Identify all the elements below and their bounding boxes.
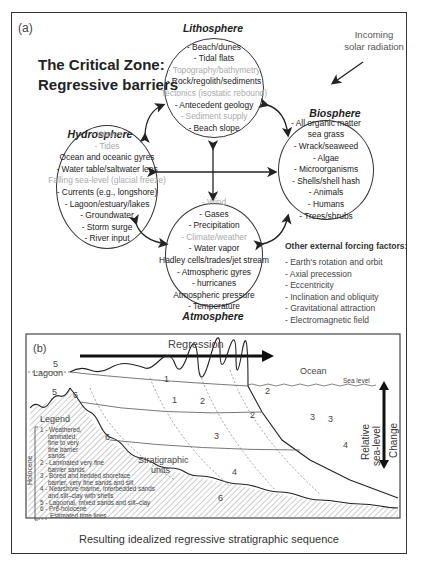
stratigraphic-section: (b) Regression Lagoon Ocean Sea level St…: [0, 330, 421, 530]
biosphere-item: - Trees/shrubs: [299, 211, 353, 223]
time-line: [230, 370, 320, 494]
unit-number: 3: [328, 414, 333, 424]
atmosphere-item: - Atmospheric gyres: [177, 267, 251, 279]
time-line: [200, 374, 275, 490]
ocean-label: Ocean: [300, 366, 327, 376]
hydrosphere-item: Ocean and oceanic gyres: [60, 152, 155, 164]
contact-3-4: [110, 440, 300, 450]
rsl-arrow-up: [379, 381, 389, 390]
biosphere-item: - Animals: [309, 187, 343, 199]
atmosphere-item: Hadley cells/trades/jet stream: [159, 255, 269, 267]
atmosphere-item: - Precipitation: [188, 220, 239, 232]
unit-number: 2: [200, 396, 205, 406]
forcing-item: - Gravitational attraction: [285, 303, 407, 315]
unit-number: 2: [250, 410, 255, 420]
atmosphere-item: - Climate/weather: [181, 232, 247, 244]
hydrosphere-item: - Storm surge: [82, 222, 133, 234]
atmosphere-item: - Water vapor: [189, 243, 239, 255]
lithosphere-circle: - Beach/dunes- Tidal flats- Topography/b…: [164, 38, 264, 138]
lithosphere-item: - Tidal flats: [194, 53, 235, 65]
biosphere-item: - Humans: [308, 199, 344, 211]
unit-number: 4: [343, 440, 348, 450]
hydrosphere-item: - Waves: [92, 129, 122, 141]
atmosphere-item: - Wind: [202, 197, 226, 209]
forcing-item: - Electromagnetic field: [285, 315, 407, 327]
sea-level-label: Sea level: [343, 377, 370, 384]
unit-number: 6: [105, 432, 110, 442]
lithosphere-item: - Topography/bathymetry: [168, 65, 260, 77]
regression-label: Regression: [168, 338, 224, 350]
unit-number: 4: [232, 467, 237, 477]
unit-number: 6: [73, 390, 78, 400]
biosphere-circle: - All organic mattersea grass- Wrack/sea…: [278, 120, 374, 220]
lithosphere-item: - Rock/regolith/sediments: [167, 76, 262, 88]
hydrosphere-item: - Tides: [94, 141, 119, 153]
hydrosphere-item: - River input: [84, 233, 129, 245]
hydrosphere-item: - Groundwater: [80, 210, 134, 222]
forcing-item: - Earth's rotation and orbit: [285, 257, 407, 269]
unit-number: 1: [172, 395, 177, 405]
atmosphere-label: Atmosphere: [163, 310, 263, 322]
biosphere-item: - Algae: [313, 153, 339, 165]
unit-number: 5: [53, 359, 58, 369]
legend-title: Legend: [40, 414, 70, 424]
biosphere-item: - Shells/shell hash: [292, 176, 360, 188]
lithosphere-item: Tectonics (isostatic rebound): [161, 88, 267, 100]
lithosphere-item: - Sediment supply: [180, 111, 247, 123]
unit-number: 5: [52, 387, 57, 397]
units-label: units: [151, 465, 171, 475]
forcing-title: Other external forcing factors:: [285, 241, 407, 251]
holocene-label: Holocene: [26, 455, 33, 485]
forcing-item: - Inclination and obliquity: [285, 292, 407, 304]
figure-caption: Resulting idealized regressive stratigra…: [11, 533, 407, 545]
unit-number: 2: [265, 386, 270, 396]
atmosphere-item: Atmospheric pressure: [173, 290, 254, 302]
atmosphere-item: - hurricanes: [192, 278, 236, 290]
lithosphere-item: - Antecedent geology: [175, 100, 254, 112]
lagoon-label: Lagoon: [33, 368, 63, 378]
atmosphere-item: - Gases: [199, 209, 228, 221]
hydrosphere-item: - Water table/saltwater lens: [56, 164, 157, 176]
legend-item: Estimated time lines: [50, 512, 106, 519]
lithosphere-label: Lithosphere: [163, 22, 263, 34]
lithosphere-item: - Beach/dunes: [187, 42, 241, 54]
atmo-bio-arrow: [262, 216, 288, 244]
contact-2-3: [80, 402, 262, 413]
rsl-label-3: Change: [388, 423, 399, 458]
solar-arrow: [333, 62, 363, 83]
hydrosphere-item: - Lagoon/estuary/lakes: [65, 199, 150, 211]
unit-number: 3: [214, 431, 219, 441]
stratigraphic-label: Stratigraphic: [138, 455, 189, 465]
biosphere-item: - Microorganisms: [294, 164, 358, 176]
biosphere-item: - All organic matter: [291, 118, 361, 130]
hydrosphere-circle: - Waves- TidesOcean and oceanic gyres- W…: [56, 125, 158, 249]
regression-arrow-head: [262, 350, 274, 362]
hydrosphere-item: - Currents (e.g., longshore): [57, 187, 158, 199]
lithosphere-item: - Beach slope: [188, 123, 239, 135]
unit-number: 3: [310, 412, 315, 422]
biosphere-item: sea grass: [308, 129, 344, 141]
atmosphere-circle: - Wind- Gases- Precipitation- Climate/we…: [165, 203, 263, 307]
contact-1-2: [70, 372, 248, 386]
panel-b-label: (b): [33, 342, 46, 354]
forcing-item: - Axial precession: [285, 269, 407, 281]
unit-number: 1: [164, 374, 169, 384]
forcing-factors: Other external forcing factors: - Earth'…: [285, 241, 407, 327]
rsl-label-1: Relative: [360, 423, 371, 460]
biosphere-item: - Wrack/seaweed: [294, 141, 359, 153]
forcing-item: - Eccentricity: [285, 280, 407, 292]
hydrosphere-item: Falling sea-level (glacial freeze): [48, 175, 166, 187]
rsl-label-2: sea-level: [371, 426, 382, 466]
unit-number: 6: [218, 493, 223, 503]
